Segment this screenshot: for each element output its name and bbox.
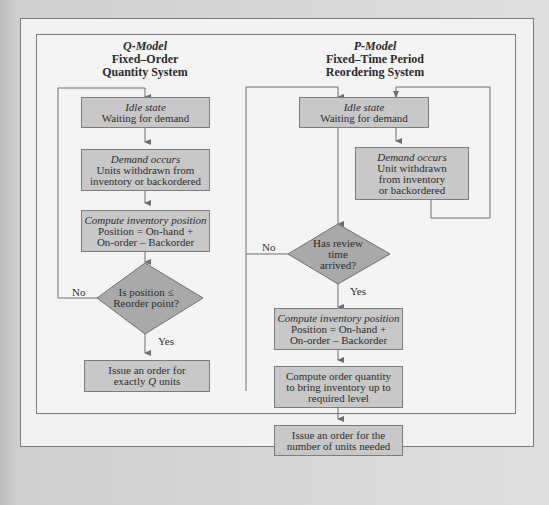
p-issue-order-box: Issue an order for the number of units n… [274,425,403,456]
p-model-title: P-Model Fixed–Time Period Reordering Sys… [300,40,450,79]
q-model-title: Q-Model Fixed–Order Quantity System [80,40,210,79]
q-decision-text: Is position ≤ Reorder point? [105,287,187,309]
q-idle-title: Idle state [125,102,166,113]
q-issue-line2: exactly Q units [114,376,181,387]
p-demand-box: Demand occurs Unit withdrawn from invent… [355,147,469,200]
q-yes-label: Yes [158,335,174,347]
p-decision-text: Has review time arrived? [303,238,373,271]
q-demand-line1: Units withdrawn from [97,165,195,176]
p-no-label: No [262,241,275,253]
q-no-label: No [72,286,85,298]
p-compute-position-box: Compute inventory position Position = On… [274,308,403,350]
p-idle-text: Waiting for demand [320,113,408,124]
p-issue-line1: Issue an order for the [292,430,385,441]
p-order-quantity-box: Compute order quantity to bring inventor… [274,366,403,408]
p-demand-line3: or backordered [379,185,445,196]
p-compute-line2: On-order – Backorder [290,335,387,346]
page-background: Q-Model Fixed–Order Quantity System P-Mo… [0,0,549,505]
p-order-qty-line3: required level [308,393,369,404]
q-compute-title: Compute inventory position [84,215,206,226]
p-idle-state-box: Idle state Waiting for demand [299,97,429,128]
p-compute-line1: Position = On-hand + [291,324,386,335]
q-issue-line2-pre: exactly [114,375,149,387]
p-order-qty-line2: to bring inventory up to [286,382,391,393]
q-compute-line2: On-order – Backorder [97,237,194,248]
p-order-qty-line1: Compute order quantity [286,371,391,382]
p-issue-line2: number of units needed [287,441,391,452]
q-idle-text: Waiting for demand [102,113,190,124]
p-demand-line2: from inventory [379,174,445,185]
q-idle-state-box: Idle state Waiting for demand [81,97,210,128]
p-yes-label: Yes [350,285,366,297]
p-model-subtitle-2: Reordering System [300,66,450,79]
q-issue-q-symbol: Q [148,375,156,387]
p-compute-title: Compute inventory position [277,313,399,324]
p-decision-line3: arrived? [303,260,373,271]
p-idle-title: Idle state [344,102,385,113]
q-issue-line2-post: units [156,375,180,387]
q-demand-line2: inventory or backordered [90,176,201,187]
q-decision-line2: Reorder point? [105,298,187,309]
p-demand-line1: Unit withdrawn [377,163,446,174]
q-demand-box: Demand occurs Units withdrawn from inven… [81,149,210,191]
q-demand-title: Demand occurs [111,154,180,165]
q-model-subtitle-2: Quantity System [80,66,210,79]
p-demand-title: Demand occurs [377,152,446,163]
q-compute-position-box: Compute inventory position Position = On… [81,210,210,252]
q-compute-line1: Position = On-hand + [98,226,193,237]
q-issue-order-box: Issue an order for exactly Q units [84,360,210,392]
